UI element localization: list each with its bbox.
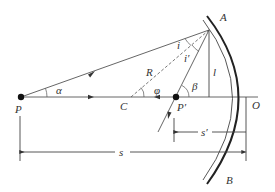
label-C: C (120, 100, 128, 112)
label-alpha: α (56, 84, 62, 96)
angle-beta-arc (182, 86, 189, 98)
label-phi: φ (154, 84, 160, 96)
label-P: P (14, 103, 22, 115)
label-i-prime: i′ (184, 52, 190, 64)
angle-i-prime-arc (192, 45, 199, 52)
point-P-image (173, 94, 179, 100)
label-i: i (177, 39, 180, 51)
label-A: A (219, 11, 227, 23)
angle-alpha-arc (46, 88, 48, 97)
point-P (18, 94, 24, 100)
label-R: R (145, 66, 153, 78)
mirror-outer-surface (207, 16, 239, 184)
label-l: l (213, 66, 216, 78)
label-O: O (252, 99, 260, 111)
reflected-ray-arrow (168, 112, 172, 119)
label-P-image: P′ (176, 101, 187, 113)
mirror-inner-surface (203, 20, 233, 180)
mirror-diagram: P C P′ O A B R l α φ β i i′ s s′ (0, 0, 275, 192)
label-B: B (226, 174, 233, 186)
label-beta: β (191, 80, 198, 92)
label-s: s (119, 146, 123, 158)
label-s-prime: s′ (201, 126, 208, 138)
axis-arrow-right (88, 95, 94, 99)
angle-i-arc (185, 39, 191, 46)
angle-phi-arc (141, 88, 144, 98)
